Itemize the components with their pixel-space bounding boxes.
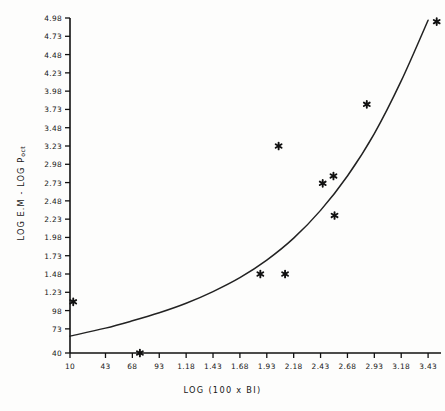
y-axis-title-subscript: oct xyxy=(19,146,26,157)
x-axis-tick-label: 2.43 xyxy=(312,362,330,371)
data-point-marker xyxy=(70,298,76,305)
x-axis-tick-label: 2.93 xyxy=(365,362,383,371)
y-axis-tick-label: 4.23 xyxy=(18,68,62,77)
x-axis-tick-label: 43 xyxy=(100,362,110,371)
x-axis-tick-label: 2.68 xyxy=(339,362,357,371)
y-axis-tick-label: 1.48 xyxy=(18,270,62,279)
x-axis-title: LOG (100 x BI) xyxy=(0,385,445,395)
y-axis-tick-label: 4.98 xyxy=(18,14,62,23)
axes-group xyxy=(65,18,441,358)
x-axis-tick-label: 1.68 xyxy=(231,362,249,371)
y-axis-tick-label: 3.73 xyxy=(18,105,62,114)
y-axis-tick-label: 4.73 xyxy=(18,32,62,41)
data-point-marker xyxy=(276,143,282,150)
data-points-group xyxy=(70,18,439,356)
y-axis-tick-label: 98 xyxy=(18,306,62,315)
y-axis-tick-label: 1.23 xyxy=(18,288,62,297)
chart-container: 4073981.231.481.731.982.232.482.732.983.… xyxy=(0,0,445,411)
x-axis-tick-label: 68 xyxy=(127,362,137,371)
data-point-marker xyxy=(257,271,263,278)
x-axis-tick-label: 2.18 xyxy=(285,362,303,371)
plot-canvas xyxy=(0,0,445,411)
x-axis-tick-label: 93 xyxy=(154,362,164,371)
x-axis-tick-label: 3.43 xyxy=(419,362,437,371)
data-point-marker xyxy=(282,271,288,278)
y-axis-tick-label: 3.98 xyxy=(18,87,62,96)
x-axis-tick-label: 10 xyxy=(65,362,75,371)
y-axis-title-main: LOG E.M - LOG P xyxy=(16,157,26,241)
x-axis-tick-label: 1.93 xyxy=(258,362,276,371)
x-axis-tick-label: 1.43 xyxy=(204,362,222,371)
x-axis-tick-label: 1.18 xyxy=(177,362,195,371)
data-point-marker xyxy=(364,101,370,108)
y-axis-tick-label: 40 xyxy=(18,349,62,358)
fitted-curve xyxy=(70,20,428,336)
y-axis-tick-label: 4.48 xyxy=(18,50,62,59)
x-axis-tick-label: 3.18 xyxy=(392,362,410,371)
y-axis-tick-label: 73 xyxy=(18,324,62,333)
y-axis-title: LOG E.M - LOG Poct xyxy=(16,118,26,268)
data-point-marker xyxy=(320,180,326,187)
data-point-marker xyxy=(434,18,440,25)
data-point-marker xyxy=(332,212,338,219)
data-point-marker xyxy=(331,173,337,180)
